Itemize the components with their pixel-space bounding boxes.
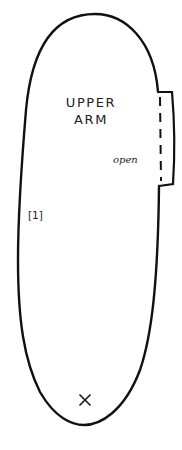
piece-title-line-2: ARM xyxy=(0,111,182,128)
upper-arm-pattern-piece: UPPER ARM open [1] xyxy=(0,0,182,450)
piece-title: UPPER ARM xyxy=(0,94,182,128)
opening-label: open xyxy=(113,154,138,165)
piece-number: [1] xyxy=(28,209,43,221)
placement-mark-x xyxy=(80,395,90,405)
piece-title-line-1: UPPER xyxy=(0,94,182,111)
pattern-outline-svg xyxy=(0,0,182,450)
